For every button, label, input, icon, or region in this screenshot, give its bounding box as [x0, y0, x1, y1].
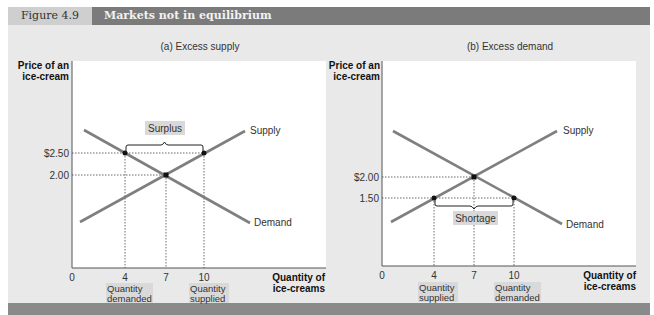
panel-b-ylabel-line2: ice-cream — [333, 71, 380, 82]
panel-a-equilibrium-point — [164, 173, 169, 178]
panel-b-point-qs — [432, 196, 437, 201]
panel-a-ylabel-line2: ice-cream — [22, 71, 69, 82]
panel-b-point-qd — [512, 196, 517, 201]
panel-b-xtick-7: 7 — [471, 270, 477, 281]
panel-b-qd-label-line2: demanded — [495, 292, 540, 303]
panel-a-plot-area — [72, 61, 326, 268]
panel-a-xlabel-line2: ice-creams — [273, 283, 326, 294]
panel-b-equilibrium-point — [472, 175, 477, 180]
panel-b-ytick-low: 1.50 — [360, 193, 380, 204]
panel-b-excess-demand: (b) Excess demand Price of an ice-cream … — [329, 41, 637, 303]
panel-b-xtick-4: 4 — [431, 270, 437, 281]
panel-a-demand-label: Demand — [254, 217, 292, 228]
panel-a-qs-label-line2: supplied — [190, 293, 225, 304]
panel-a-ytick-high: $2.50 — [44, 148, 69, 159]
panel-b-plot-area — [382, 61, 636, 266]
panel-b-xlabel-line2: ice-creams — [584, 281, 637, 292]
panel-a-xtick-4: 4 — [122, 272, 128, 283]
panel-b-xtick-0: 0 — [379, 270, 385, 281]
panel-a-title: (a) Excess supply — [161, 41, 240, 52]
panel-a-xtick-0: 0 — [69, 272, 75, 283]
panel-b-title: (b) Excess demand — [467, 41, 553, 52]
panel-b-xtick-10: 10 — [508, 270, 520, 281]
panel-a-point-qs — [202, 151, 207, 156]
panel-a-ytick-low: 2.00 — [50, 170, 70, 181]
panel-a-ylabel-line1: Price of an — [18, 60, 69, 71]
panel-a-qd-label-line2: demanded — [107, 293, 152, 304]
panel-b-qs-label-line2: supplied — [419, 292, 454, 303]
panel-a-xlabel-line1: Quantity of — [272, 272, 325, 283]
panel-a-excess-supply: (a) Excess supply Price of an ice-cream … — [18, 41, 326, 304]
panel-b-ylabel-line1: Price of an — [329, 60, 380, 71]
panel-a-xtick-10: 10 — [198, 272, 210, 283]
panel-b-shortage-label: Shortage — [455, 213, 496, 224]
panel-b-xlabel-line1: Quantity of — [583, 270, 636, 281]
figure-charts: (a) Excess supply Price of an ice-cream … — [0, 0, 654, 315]
panel-a-surplus-label: Surplus — [148, 123, 182, 134]
panel-b-ytick-high: $2.00 — [354, 172, 379, 183]
panel-b-demand-label: Demand — [566, 219, 604, 230]
panel-b-supply-label: Supply — [563, 125, 594, 136]
panel-a-point-qd — [123, 151, 128, 156]
panel-a-xtick-7: 7 — [163, 272, 169, 283]
panel-a-supply-label: Supply — [250, 125, 281, 136]
